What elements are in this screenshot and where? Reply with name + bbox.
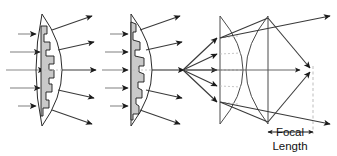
lens-stepped-profile-panel-2: [131, 22, 144, 120]
panel-stepped-planoconvex: [102, 14, 184, 126]
optics-diagram-canvas: Focal Length: [0, 0, 337, 156]
focal-length-label-line-2: Length: [272, 140, 307, 152]
incoming-rays-panel-1: [6, 34, 44, 106]
lens-stepped-profile-panel-1: [41, 26, 54, 116]
optics-figure: Focal Length: [0, 0, 337, 156]
outgoing-rays-panel-1: [52, 16, 96, 124]
panel-stepped-biconvex: [6, 14, 96, 126]
focal-length-label-line-1: Focal: [276, 126, 304, 138]
panel-compound-lens-focus: Focal Length: [183, 16, 330, 152]
incoming-rays-panel-2: [102, 34, 128, 106]
